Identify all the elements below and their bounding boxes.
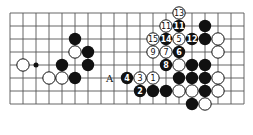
black-stone [69, 33, 81, 45]
move-number: 4 [124, 74, 130, 83]
white-stone [186, 85, 198, 97]
black-stone [186, 59, 198, 71]
move-number: 11 [173, 22, 185, 31]
white-stone [212, 72, 224, 84]
move-number: 7 [163, 48, 168, 57]
move-number: 14 [160, 35, 172, 44]
move-number: 8 [163, 61, 169, 70]
black-stone [199, 33, 211, 45]
white-stone [212, 46, 224, 58]
black-stone [186, 72, 198, 84]
white-stone [69, 46, 81, 58]
go-board: 131111151451297684312A [0, 0, 253, 135]
black-stone [82, 59, 94, 71]
move-number: 5 [176, 35, 181, 44]
white-stone [199, 98, 211, 110]
black-stone [199, 20, 211, 32]
white-stone [212, 85, 224, 97]
point-label-a: A [105, 73, 114, 84]
white-stone [17, 59, 29, 71]
white-stone [43, 72, 55, 84]
black-stone [173, 72, 185, 84]
move-number: 2 [137, 87, 143, 96]
black-stone [160, 85, 172, 97]
move-number: 9 [150, 48, 155, 57]
move-number: 1 [150, 74, 155, 83]
black-stone [147, 85, 159, 97]
marker-dot [34, 63, 39, 68]
move-number: 6 [176, 48, 182, 57]
black-stone [186, 98, 198, 110]
white-stone [173, 85, 185, 97]
white-stone [173, 59, 185, 71]
black-stone [69, 72, 81, 84]
move-number: 3 [137, 74, 142, 83]
white-stone [56, 72, 68, 84]
black-stone [199, 72, 211, 84]
black-stone [82, 46, 94, 58]
move-number: 15 [148, 35, 158, 44]
black-stone [199, 59, 211, 71]
move-number: 13 [174, 9, 184, 18]
black-stone [56, 59, 68, 71]
move-number: 12 [186, 35, 197, 44]
move-number: 11 [161, 22, 171, 31]
white-stone [212, 33, 224, 45]
black-stone [199, 85, 211, 97]
